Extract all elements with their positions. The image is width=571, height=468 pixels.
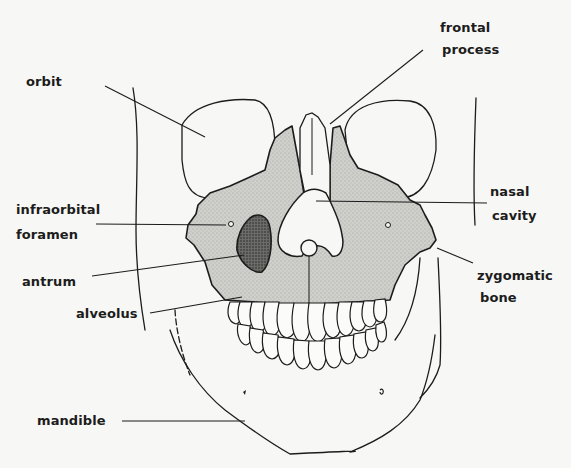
left-mental-foramen [243,390,246,395]
label-infraorbital-foramen-line1: infraorbital [16,200,100,219]
label-antrum: antrum [22,272,76,291]
label-nasal-cavity-line2: cavity [492,206,537,225]
label-zygomatic-bone-line2: bone [480,288,517,307]
skull-left-outline [133,88,145,330]
left-infraorbital-foramen [229,222,234,227]
mandible-ramus-left [175,310,190,375]
label-frontal-process-line1: frontal [440,18,490,37]
right-infraorbital-foramen [386,223,391,228]
skull-diagram: orbit frontal process nasal cavity infra… [0,0,571,468]
mandible-ramus-right [420,258,441,398]
skull-right-outline [474,98,476,225]
label-nasal-cavity-line1: nasal [490,182,530,201]
label-infraorbital-foramen-line2: foramen [16,225,78,244]
right-mental-foramen [380,389,383,394]
label-frontal-process-line2: process [442,40,499,59]
leader-zygomatic-bone [437,248,473,263]
skull-illustration [0,0,571,468]
label-mandible: mandible [37,411,106,430]
nasal-bones [300,113,330,200]
label-alveolus: alveolus [76,304,138,323]
label-zygomatic-bone-line1: zygomatic [477,266,553,285]
leader-frontal-process [330,50,423,124]
label-orbit: orbit [26,72,62,91]
leader-orbit [105,86,205,137]
